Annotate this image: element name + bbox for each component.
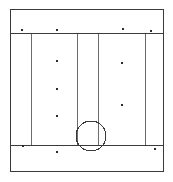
marker-top-3 [122,28,124,30]
drawing-canvas: Architectural elevation line drawing [0,0,173,182]
marker-top-4 [150,30,152,32]
marker-bottom-2 [56,151,58,153]
marker-left-2 [56,88,58,90]
marker-left-3 [56,115,58,117]
marker-bottom-1 [22,145,24,147]
marker-top-2 [56,29,58,31]
marker-left-1 [56,60,58,62]
marker-top-1 [21,29,23,31]
line-drawing-svg [0,0,173,182]
marker-right-2 [121,104,123,106]
marker-right-1 [121,62,123,64]
marker-bottom-3 [154,148,156,150]
canvas-background [0,0,173,182]
